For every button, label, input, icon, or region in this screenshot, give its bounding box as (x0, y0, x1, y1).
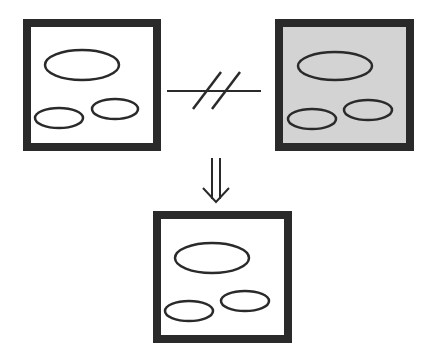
double-down-arrow-icon (203, 158, 229, 202)
right-panel (279, 23, 410, 147)
not-equal-symbol (167, 72, 261, 109)
bottom-panel (157, 215, 288, 339)
left-panel-frame (27, 23, 157, 147)
left-panel (27, 23, 157, 147)
diagram-canvas (0, 0, 433, 356)
